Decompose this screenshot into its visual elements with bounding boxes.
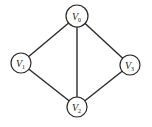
node-v0: V0 [66, 5, 88, 27]
graph-diagram: V0 V1 V3 V2 [0, 0, 152, 127]
node-v1: V1 [11, 53, 31, 73]
node-v3: V3 [120, 55, 140, 75]
edge-v1-v2 [21, 63, 77, 107]
edges-layer [21, 16, 130, 107]
nodes-layer: V0 V1 V3 V2 [11, 5, 140, 117]
node-v2: V2 [67, 97, 87, 117]
